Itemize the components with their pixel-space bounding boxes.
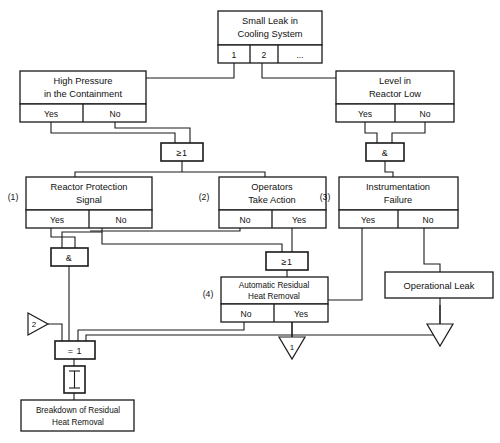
transfer-out-1-label: 1	[290, 343, 295, 352]
node-high-pressure-line1: High Pressure	[54, 76, 113, 86]
node-reactor-protection-signal[interactable]: (1) Reactor Protection Signal Yes No	[8, 177, 152, 228]
cell-rps-yes[interactable]: Yes	[50, 215, 64, 225]
node-inst-line1: Instrumentation	[366, 182, 430, 192]
node-level-reactor-low[interactable]: Level in Reactor Low Yes No	[336, 71, 454, 122]
inhibit-icon[interactable]	[64, 366, 85, 393]
gate-or-mid[interactable]: ≥1	[266, 252, 308, 270]
terminal-breakdown-line1: Breakdown of Residual	[36, 406, 120, 415]
cell-more[interactable]: ...	[296, 50, 303, 60]
node-high-pressure[interactable]: High Pressure in the Containment Yes No	[20, 71, 146, 122]
transfer-in-2-label: 2	[32, 320, 37, 329]
node-automatic-residual-heat-removal[interactable]: (4) Automatic Residual Heat Removal No Y…	[203, 277, 328, 322]
cell-high-pressure-yes[interactable]: Yes	[44, 109, 58, 119]
node-level-line2: Reactor Low	[369, 89, 421, 99]
ref-reactor-protection: (1)	[8, 192, 19, 202]
ref-operators: (2)	[199, 192, 210, 202]
cell-2[interactable]: 2	[262, 50, 267, 60]
terminal-operational-leak-label: Operational Leak	[404, 281, 475, 291]
cell-level-yes[interactable]: Yes	[358, 109, 372, 119]
node-arhr-line1: Automatic Residual	[239, 281, 310, 290]
cell-high-pressure-no[interactable]: No	[110, 109, 121, 119]
node-operators-take-action[interactable]: (2) Operators Take Action No Yes	[199, 177, 326, 228]
terminal-breakdown-residual-heat-removal[interactable]: Breakdown of Residual Heat Removal	[21, 400, 134, 431]
cell-level-no[interactable]: No	[420, 109, 431, 119]
node-inst-line2: Failure	[384, 195, 412, 205]
gate-and-left-symbol: &	[66, 253, 73, 263]
terminal-operational-leak[interactable]: Operational Leak	[385, 272, 493, 298]
cell-1[interactable]: 1	[232, 50, 237, 60]
gate-and-right[interactable]: &	[366, 143, 404, 161]
transfer-in-2-icon[interactable]: 2	[28, 313, 48, 335]
node-arhr-line2: Heat Removal	[248, 292, 300, 301]
fault-tree-diagram: Small Leak in Cooling System 1 2 ... Hig…	[0, 0, 500, 443]
node-ota-line2: Take Action	[248, 195, 296, 205]
cell-rps-no[interactable]: No	[116, 215, 127, 225]
node-ota-line1: Operators	[251, 182, 293, 192]
node-rps-line2: Signal	[76, 195, 102, 205]
node-title-line1: Small Leak in	[242, 16, 298, 26]
gate-xor[interactable]: = 1	[55, 341, 95, 359]
cell-ota-yes[interactable]: Yes	[292, 215, 306, 225]
ref-instrumentation: (3)	[320, 192, 331, 202]
gate-xor-symbol: = 1	[68, 346, 82, 356]
cell-arhr-no[interactable]: No	[241, 309, 252, 319]
cell-arhr-yes[interactable]: Yes	[294, 309, 308, 319]
cell-inst-no[interactable]: No	[423, 215, 434, 225]
gate-or-top[interactable]: ≥1	[161, 143, 203, 161]
node-small-leak-cooling-system[interactable]: Small Leak in Cooling System 1 2 ...	[218, 11, 322, 63]
gate-and-left[interactable]: &	[51, 248, 88, 266]
node-instrumentation-failure[interactable]: (3) Instrumentation Failure Yes No	[320, 177, 458, 228]
terminal-breakdown-line2: Heat Removal	[52, 418, 104, 427]
gate-or-mid-symbol: ≥1	[282, 257, 293, 267]
node-rps-line1: Reactor Protection	[51, 182, 128, 192]
transfer-out-1-icon[interactable]: 1	[279, 337, 305, 359]
cell-inst-yes[interactable]: Yes	[361, 215, 375, 225]
ref-arhr: (4)	[203, 289, 214, 299]
gate-and-right-symbol: &	[382, 148, 389, 158]
node-title-line2: Cooling System	[237, 29, 302, 39]
node-high-pressure-line2: in the Containment	[44, 89, 122, 99]
gate-or-top-symbol: ≥1	[177, 148, 188, 158]
node-level-line1: Level in	[379, 76, 411, 86]
cell-ota-no[interactable]: No	[240, 215, 251, 225]
